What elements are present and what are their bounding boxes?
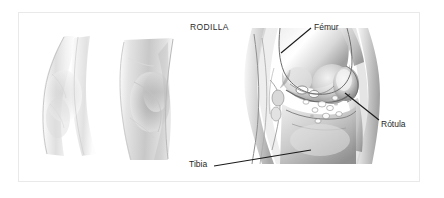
label-femur: Fémur — [314, 22, 339, 32]
label-tibia: Tibia — [189, 159, 207, 169]
figure-page: RODILLA Fémur Rótula Tibia — [0, 0, 444, 198]
figure-title: RODILLA — [190, 22, 229, 32]
figure-card-frame — [18, 12, 420, 182]
label-rotula: Rótula — [381, 119, 406, 129]
